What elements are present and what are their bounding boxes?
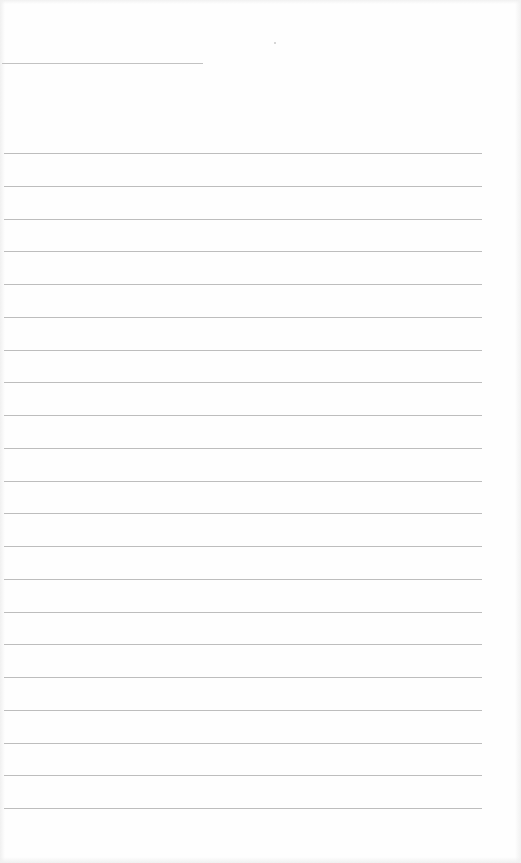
- ruled-line: [4, 775, 482, 776]
- ruled-line: [4, 579, 482, 580]
- ruled-line: [4, 808, 482, 809]
- ruled-line: [4, 186, 482, 187]
- scan-right-edge: [515, 0, 521, 863]
- scan-left-edge: [0, 0, 5, 863]
- ruled-line: [4, 546, 482, 547]
- ruled-line: [4, 415, 482, 416]
- ruled-line: [4, 153, 482, 154]
- ruled-line: [4, 350, 482, 351]
- ruled-line: [4, 219, 482, 220]
- document-page: [0, 0, 521, 863]
- ruled-line: [4, 710, 482, 711]
- ruled-line: [4, 677, 482, 678]
- scan-bottom-edge: [0, 857, 521, 863]
- ruled-line: [4, 612, 482, 613]
- ruled-line: [4, 513, 482, 514]
- ruled-line: [4, 743, 482, 744]
- ruled-line: [4, 382, 482, 383]
- ruled-line: [4, 317, 482, 318]
- ruled-line: [4, 644, 482, 645]
- scan-top-edge: [0, 0, 521, 4]
- header-underline: [2, 63, 203, 64]
- ruled-line: [4, 481, 482, 482]
- ruled-line: [4, 284, 482, 285]
- scan-speck: [274, 42, 276, 44]
- ruled-line: [4, 448, 482, 449]
- ruled-line: [4, 251, 482, 252]
